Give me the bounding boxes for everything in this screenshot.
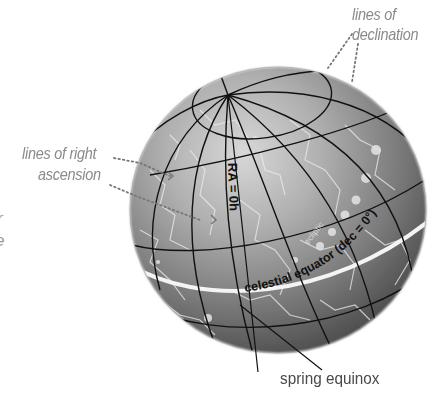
declination-label-line2: declination — [352, 26, 418, 43]
ra-label-line1: lines of right — [22, 145, 96, 162]
cropped-fragment-1: r — [0, 210, 3, 227]
celestial-sphere-diagram: RA = 0h ecliptic celestial equator (dec … — [0, 0, 442, 397]
ra-zero-label: RA = 0h — [225, 163, 242, 212]
sphere-graphic: RA = 0h ecliptic celestial equator (dec … — [0, 0, 442, 397]
cropped-fragment-2: e — [0, 232, 4, 249]
declination-label-line1: lines of — [352, 6, 396, 23]
spring-equinox-label: spring equinox — [280, 370, 380, 387]
ra-label-line2: ascension — [38, 166, 101, 183]
